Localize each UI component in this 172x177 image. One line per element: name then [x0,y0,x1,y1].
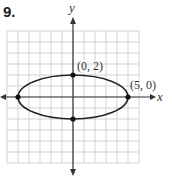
ellipse-graph: 9. x y (0, 2) (5, 0) [0,0,172,177]
y-arrow-up-icon [70,17,76,24]
x-axis-label: x [156,89,163,104]
point-label-0-2: (0, 2) [77,59,103,73]
point-neg5-0 [15,94,20,99]
point-0-2 [70,72,75,77]
point-label-5-0: (5, 0) [130,78,156,92]
y-arrow-down-icon [70,169,76,176]
x-arrow-right-icon [150,94,156,100]
point-0-neg2 [70,116,75,121]
y-axis-label: y [67,0,75,15]
x-arrow-left-icon [0,94,6,100]
problem-number: 9. [3,3,16,20]
point-5-0 [125,94,130,99]
